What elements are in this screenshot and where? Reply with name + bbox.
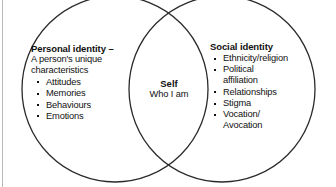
list-item-label: Ethnicity/religion	[223, 53, 322, 64]
social-identity-list: Ethnicity/religion Political affiliation…	[212, 53, 322, 131]
social-identity-heading: Social identity	[210, 41, 322, 52]
personal-identity-block: Personal identity – A person's unique ch…	[31, 43, 137, 122]
bullet-dot-icon	[214, 91, 216, 93]
bullet-dot-icon	[214, 114, 216, 116]
bullet-dot-icon	[37, 115, 39, 117]
list-item: Relationships	[212, 87, 322, 98]
list-item: Memories	[35, 88, 137, 99]
list-item: Stigma	[212, 98, 322, 109]
overlap-subtitle: Who I am	[138, 89, 200, 100]
list-item-label: Relationships	[223, 87, 322, 98]
list-item-label: Attitudes	[46, 77, 137, 88]
list-item-label: Political	[223, 64, 322, 75]
list-item: Attitudes	[35, 77, 137, 88]
list-item: Ethnicity/religion	[212, 53, 322, 64]
personal-identity-subtitle-line1: A person's unique	[31, 54, 137, 65]
overlap-title: Self	[138, 78, 200, 89]
list-item-label: Stigma	[223, 98, 322, 109]
bullet-dot-icon	[214, 58, 216, 60]
bullet-dot-icon	[214, 69, 216, 71]
personal-identity-heading: Personal identity –	[31, 43, 137, 54]
bullet-dot-icon	[37, 81, 39, 83]
list-item-label: Emotions	[46, 111, 137, 122]
list-item-label: Memories	[46, 88, 137, 99]
list-item-label-continuation: affiliation	[223, 75, 322, 86]
venn-diagram: Personal identity – A person's unique ch…	[0, 0, 336, 187]
overlap-block: Self Who I am	[138, 78, 200, 100]
personal-identity-subtitle-line2: characteristics	[31, 65, 137, 76]
bullet-dot-icon	[37, 104, 39, 106]
list-item: Vocation/ Avocation	[212, 109, 322, 131]
personal-identity-list: Attitudes Memories Behaviours Emotions	[35, 77, 137, 122]
list-item: Political affiliation	[212, 64, 322, 86]
list-item-label: Vocation/	[223, 109, 322, 120]
bullet-dot-icon	[214, 103, 216, 105]
list-item: Emotions	[35, 111, 137, 122]
list-item-label-continuation: Avocation	[223, 120, 322, 131]
social-identity-block: Social identity Ethnicity/religion Polit…	[210, 41, 322, 131]
list-item: Behaviours	[35, 100, 137, 111]
list-item-label: Behaviours	[46, 100, 137, 111]
bullet-dot-icon	[37, 93, 39, 95]
